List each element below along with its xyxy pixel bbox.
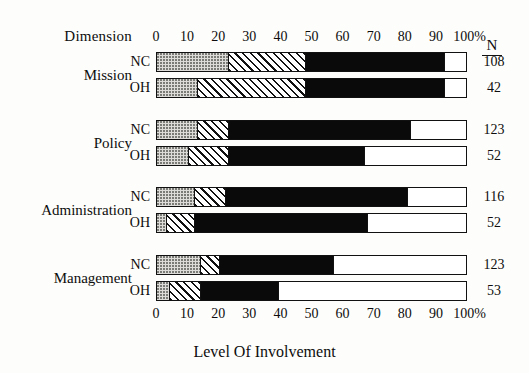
axis-top: 0102030405060708090100%	[156, 29, 467, 47]
axis-tick-40: 40	[273, 306, 287, 322]
axis-tick-20: 20	[211, 306, 225, 322]
bar-segment-solid[interactable]	[225, 188, 407, 206]
row-label-nc: NC	[110, 257, 150, 273]
bar-segment-dotted[interactable]	[157, 282, 169, 300]
bar-segment-hatch[interactable]	[197, 79, 305, 97]
row-label-nc: NC	[110, 189, 150, 205]
bar-row: NC108	[0, 52, 529, 72]
bar-group-policy: PolicyNC123OH52	[0, 120, 529, 166]
sample-size-value: 52	[474, 148, 514, 164]
stacked-bar[interactable]	[156, 120, 467, 140]
row-label-oh: OH	[110, 80, 150, 96]
bar-segment-empty[interactable]	[367, 214, 466, 232]
bar-segment-dotted[interactable]	[157, 188, 194, 206]
axis-tick-0: 0	[153, 29, 160, 45]
row-label-oh: OH	[110, 215, 150, 231]
bar-row: OH42	[0, 78, 529, 98]
sample-size-value: 108	[474, 54, 514, 70]
bar-segment-empty[interactable]	[278, 282, 466, 300]
bar-segment-dotted[interactable]	[157, 121, 197, 139]
bar-segment-empty[interactable]	[364, 147, 466, 165]
bar-segment-dotted[interactable]	[157, 214, 166, 232]
stacked-bar[interactable]	[156, 187, 467, 207]
axis-tick-90: 90	[429, 29, 443, 45]
axis-tick-30: 30	[242, 306, 256, 322]
bar-segment-solid[interactable]	[200, 282, 277, 300]
axis-tick-10: 10	[180, 29, 194, 45]
bar-segment-empty[interactable]	[444, 79, 466, 97]
axis-tick-20: 20	[211, 29, 225, 45]
bar-row: NC123	[0, 120, 529, 140]
bar-segment-empty[interactable]	[444, 53, 466, 71]
axis-tick-80: 80	[398, 306, 412, 322]
sample-size-value: 116	[474, 189, 514, 205]
stacked-bar[interactable]	[156, 146, 467, 166]
bar-segment-hatch[interactable]	[169, 282, 200, 300]
axis-tick-10: 10	[180, 306, 194, 322]
axis-tick-50: 50	[305, 29, 319, 45]
dimension-header: Dimension	[0, 28, 132, 45]
bar-segment-hatch[interactable]	[188, 147, 228, 165]
sample-size-value: 123	[474, 122, 514, 138]
sample-size-value: 52	[474, 215, 514, 231]
bar-segment-dotted[interactable]	[157, 256, 200, 274]
bar-row: OH52	[0, 213, 529, 233]
bar-segment-solid[interactable]	[228, 121, 410, 139]
sample-size-value: 53	[474, 283, 514, 299]
bar-segment-empty[interactable]	[333, 256, 466, 274]
bar-segment-hatch[interactable]	[197, 121, 228, 139]
bar-segment-hatch[interactable]	[228, 53, 305, 71]
bar-segment-hatch[interactable]	[194, 188, 225, 206]
x-axis-label: Level Of Involvement	[0, 343, 529, 361]
stacked-bar-chart: Dimension 0102030405060708090100% N Miss…	[0, 0, 529, 373]
sample-size-value: 123	[474, 257, 514, 273]
axis-tick-0: 0	[153, 306, 160, 322]
bar-segment-dotted[interactable]	[157, 79, 197, 97]
axis-tick-40: 40	[273, 29, 287, 45]
sample-size-value: 42	[474, 80, 514, 96]
bar-group-mission: MissionNC108OH42	[0, 52, 529, 98]
bar-row: OH53	[0, 281, 529, 301]
bar-segment-empty[interactable]	[407, 188, 466, 206]
bar-group-management: ManagementNC123OH53	[0, 255, 529, 301]
axis-bottom: 0102030405060708090100%	[156, 306, 467, 324]
axis-tick-80: 80	[398, 29, 412, 45]
bar-row: OH52	[0, 146, 529, 166]
axis-tick-100pct: 100%	[453, 306, 486, 322]
row-label-nc: NC	[110, 54, 150, 70]
bar-segment-solid[interactable]	[228, 147, 364, 165]
row-label-oh: OH	[110, 148, 150, 164]
axis-tick-60: 60	[336, 306, 350, 322]
bar-group-administration: AdministrationNC116OH52	[0, 187, 529, 233]
stacked-bar[interactable]	[156, 78, 467, 98]
bar-segment-empty[interactable]	[410, 121, 466, 139]
row-label-oh: OH	[110, 283, 150, 299]
axis-tick-70: 70	[367, 29, 381, 45]
bar-segment-solid[interactable]	[219, 256, 333, 274]
stacked-bar[interactable]	[156, 255, 467, 275]
stacked-bar[interactable]	[156, 213, 467, 233]
axis-tick-70: 70	[367, 306, 381, 322]
bar-segment-solid[interactable]	[305, 79, 444, 97]
bar-segment-dotted[interactable]	[157, 147, 188, 165]
bar-segment-hatch[interactable]	[200, 256, 219, 274]
row-label-nc: NC	[110, 122, 150, 138]
stacked-bar[interactable]	[156, 52, 467, 72]
bar-segment-solid[interactable]	[305, 53, 444, 71]
axis-tick-30: 30	[242, 29, 256, 45]
axis-tick-90: 90	[429, 306, 443, 322]
bar-segment-hatch[interactable]	[166, 214, 194, 232]
bar-row: NC123	[0, 255, 529, 275]
bar-row: NC116	[0, 187, 529, 207]
axis-tick-50: 50	[305, 306, 319, 322]
axis-tick-60: 60	[336, 29, 350, 45]
bar-segment-dotted[interactable]	[157, 53, 228, 71]
stacked-bar[interactable]	[156, 281, 467, 301]
bar-segment-solid[interactable]	[194, 214, 367, 232]
